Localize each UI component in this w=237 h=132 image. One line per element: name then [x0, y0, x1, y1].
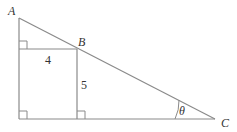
- right-angle-marker-top-left: [19, 41, 27, 49]
- label-C: C: [221, 116, 230, 130]
- label-A: A: [7, 4, 16, 18]
- label-height-5: 5: [81, 78, 87, 92]
- label-theta: θ: [179, 104, 185, 118]
- label-B: B: [78, 35, 86, 49]
- right-angle-marker-bottom-left: [19, 111, 27, 119]
- right-angle-marker-bottom-rect: [77, 111, 85, 119]
- label-width-4: 4: [45, 53, 51, 67]
- hypotenuse-AC: [19, 18, 215, 119]
- triangle-diagram: A B C 4 5 θ: [0, 0, 237, 132]
